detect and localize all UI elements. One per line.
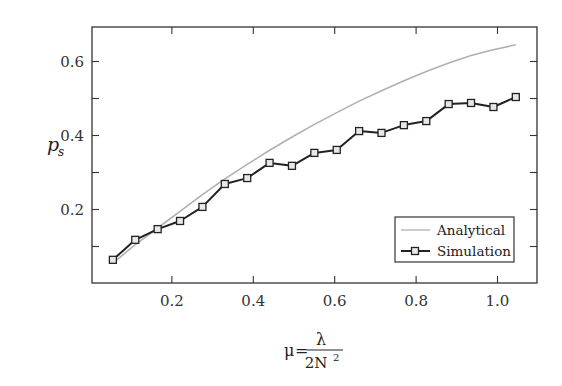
simulation-marker-square-icon xyxy=(356,128,363,135)
x-tick-label: 1.0 xyxy=(486,292,510,310)
x-tick-label: 0.6 xyxy=(323,292,347,310)
y-axis-label-subscript: s xyxy=(58,145,64,159)
simulation-marker-square-icon xyxy=(199,203,206,210)
simulation-marker-square-icon xyxy=(288,162,295,169)
simulation-marker-square-icon xyxy=(109,256,116,263)
simulation-marker-square-icon xyxy=(333,146,340,153)
simulation-marker-square-icon xyxy=(512,94,519,101)
x-axis-label-denominator: 2N xyxy=(305,354,328,372)
simulation-marker-square-icon xyxy=(445,101,452,108)
x-tick-label: 0.4 xyxy=(241,292,265,310)
legend-simulation-label: Simulation xyxy=(437,243,511,259)
simulation-marker-square-icon xyxy=(266,159,273,166)
x-axis-label-mu: μ xyxy=(284,341,294,360)
simulation-marker-square-icon xyxy=(378,129,385,136)
y-tick-label: 0.2 xyxy=(60,201,84,219)
x-tick-label: 0.8 xyxy=(404,292,428,310)
simulation-marker-square-icon xyxy=(400,122,407,129)
simulation-marker-square-icon xyxy=(154,226,161,233)
y-tick-label: 0.6 xyxy=(60,53,84,71)
y-tick-labels: 0.20.40.6 xyxy=(60,53,84,219)
legend-simulation-marker-icon xyxy=(412,248,419,255)
simulation-marker-square-icon xyxy=(221,180,228,187)
simulation-marker-square-icon xyxy=(490,104,497,111)
simulation-marker-square-icon xyxy=(177,217,184,224)
x-axis-label-numerator: λ xyxy=(316,330,326,349)
simulation-marker-square-icon xyxy=(244,175,251,182)
x-tick-label: 0.2 xyxy=(160,292,184,310)
simulation-marker-square-icon xyxy=(423,118,430,125)
legend: Analytical Simulation xyxy=(395,217,514,262)
x-axis-label: μ = λ 2N 2 xyxy=(284,330,343,372)
y-tick-label: 0.4 xyxy=(60,127,84,145)
simulation-marker-square-icon xyxy=(468,99,475,106)
x-axis-label-exponent: 2 xyxy=(333,352,339,363)
legend-analytical-label: Analytical xyxy=(436,222,505,238)
chart: 0.20.40.60.81.0 0.20.40.6 Analytical Sim… xyxy=(0,0,562,386)
x-tick-labels: 0.20.40.60.81.0 xyxy=(160,292,509,310)
simulation-marker-square-icon xyxy=(132,236,139,243)
simulation-marker-square-icon xyxy=(311,149,318,156)
